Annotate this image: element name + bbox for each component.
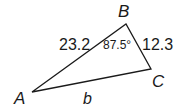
angle-label-b: 87.5°: [103, 38, 131, 52]
triangle-abc: [32, 24, 151, 92]
triangle-diagram: B C A 23.2 12.3 b 87.5°: [0, 0, 178, 112]
vertex-label-a: A: [13, 89, 25, 108]
side-label-ab: 23.2: [59, 36, 90, 53]
vertex-label-b: B: [118, 2, 129, 21]
vertex-label-c: C: [152, 72, 165, 91]
side-label-ac: b: [83, 90, 92, 107]
side-label-bc: 12.3: [142, 36, 173, 53]
